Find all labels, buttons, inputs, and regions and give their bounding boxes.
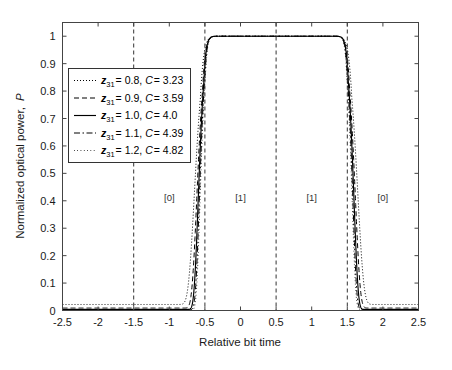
x-tick-label: -0.5 [195, 316, 214, 328]
legend-c-value: = 4.82 [154, 144, 184, 156]
legend-c-value: = 4.0 [154, 109, 178, 121]
chart-figure: -2.5-2-1.5-1-0.500.511.522.5 00.10.20.30… [0, 0, 452, 370]
legend-c-symbol: C [145, 109, 153, 121]
legend-z-value: = 1.2, [116, 144, 143, 156]
y-axis-title-symbol: P [14, 93, 26, 101]
x-tick-label: 2 [380, 316, 386, 328]
x-tick-label: -1.5 [124, 316, 143, 328]
y-tick-label: 0.5 [40, 167, 55, 179]
chart-background [0, 0, 452, 370]
legend-z-value: = 0.8, [116, 74, 143, 86]
legend-z-value: = 1.0, [116, 109, 143, 121]
x-tick-label: 0.5 [268, 316, 283, 328]
x-tick-label: -2 [93, 316, 103, 328]
pulse-power-chart: -2.5-2-1.5-1-0.500.511.522.5 00.10.20.30… [0, 0, 452, 370]
legend-z-value: = 1.1, [116, 127, 143, 139]
x-tick-label: 1 [309, 316, 315, 328]
x-tick-label: 2.5 [411, 316, 426, 328]
x-tick-label: -2.5 [53, 316, 72, 328]
y-tick-label: 0.8 [40, 85, 55, 97]
legend-z-subscript: 31 [106, 115, 114, 124]
bit-annotation: [0] [164, 192, 175, 203]
legend-z-value: = 0.9, [116, 92, 143, 104]
bit-annotation: [0] [378, 192, 389, 203]
x-tick-label: 1.5 [340, 316, 355, 328]
y-tick-label: 0.9 [40, 58, 55, 70]
y-tick-label: 0 [49, 305, 55, 317]
y-axis-title-group: Normalized optical power, P [14, 93, 26, 239]
legend-c-symbol: C [145, 144, 153, 156]
legend-z-subscript: 31 [106, 150, 114, 159]
x-axis-title: Relative bit time [199, 336, 281, 348]
x-tick-label: -1 [164, 316, 174, 328]
bit-annotation: [1] [235, 192, 246, 203]
y-tick-label: 0.1 [40, 277, 55, 289]
bit-annotation: [1] [306, 192, 317, 203]
legend-c-value: = 4.39 [154, 127, 184, 139]
legend-c-value: = 3.23 [154, 74, 184, 86]
y-tick-label: 0.6 [40, 140, 55, 152]
y-axis-title-main: Normalized optical power, [14, 107, 26, 239]
legend-c-symbol: C [145, 92, 153, 104]
y-axis-title: Normalized optical power, P [14, 93, 26, 239]
legend-z-subscript: 31 [106, 98, 114, 107]
y-tick-label: 0.4 [40, 195, 55, 207]
y-tick-label: 0.7 [40, 113, 55, 125]
chart-legend: z31= 0.8,C= 3.23z31= 0.9,C= 3.59z31= 1.0… [69, 69, 191, 163]
legend-z-subscript: 31 [106, 80, 114, 89]
legend-c-symbol: C [145, 74, 153, 86]
y-tick-label: 1 [49, 30, 55, 42]
y-tick-label: 0.2 [40, 250, 55, 262]
x-tick-label: 0 [237, 316, 243, 328]
y-tick-label: 0.3 [40, 222, 55, 234]
legend-z-subscript: 31 [106, 133, 114, 142]
legend-c-value: = 3.59 [154, 92, 184, 104]
legend-c-symbol: C [145, 127, 153, 139]
